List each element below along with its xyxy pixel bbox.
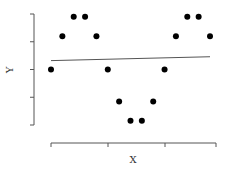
- data-point: [71, 14, 77, 20]
- data-point: [162, 67, 168, 73]
- data-point: [93, 33, 99, 39]
- scatter-chart: Y X: [0, 0, 232, 176]
- y-axis: [30, 14, 34, 125]
- data-point: [184, 14, 190, 20]
- x-axis: [51, 143, 216, 147]
- data-point: [116, 98, 122, 104]
- data-point: [207, 33, 213, 39]
- data-point: [59, 33, 65, 39]
- data-point: [196, 14, 202, 20]
- data-point: [105, 67, 111, 73]
- data-point: [128, 118, 134, 124]
- data-point: [173, 33, 179, 39]
- y-axis-label: Y: [4, 66, 15, 74]
- x-axis-label: X: [129, 154, 137, 165]
- fit-line: [51, 57, 210, 61]
- data-point: [48, 67, 54, 73]
- data-point: [82, 14, 88, 20]
- data-point: [150, 98, 156, 104]
- data-point: [139, 118, 145, 124]
- data-points: [48, 14, 213, 124]
- fit-line-group: [51, 57, 210, 61]
